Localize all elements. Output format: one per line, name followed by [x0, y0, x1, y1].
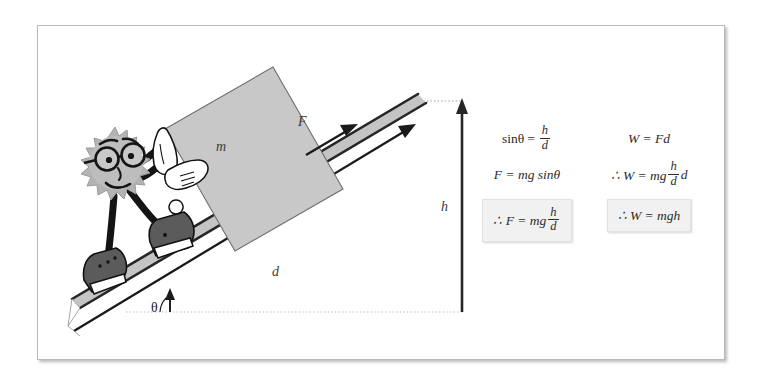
- fraction-h-over-d-work: h d: [668, 160, 678, 187]
- fraction-numerator: h: [548, 206, 558, 219]
- angle-marker: [160, 288, 175, 312]
- equation-column-left: sinθ = h d F = mg sinθ ∴ F = mg h d: [468, 121, 586, 242]
- boxed-result-force: ∴ F = mg h d: [482, 199, 571, 242]
- slide-frame: d m F θ h: [37, 25, 725, 360]
- fraction-numerator: h: [540, 124, 550, 137]
- equation-panel: sinθ = h d F = mg sinθ ∴ F = mg h d W =: [468, 121, 708, 301]
- boxed-force-prefix: ∴ F = mg: [493, 212, 546, 229]
- fraction-denominator: d: [540, 138, 550, 152]
- fraction-h-over-d-force: h d: [548, 206, 558, 233]
- equation-force-mg-sin: F = mg sinθ: [468, 157, 586, 193]
- equation-sin-theta: sinθ = h d: [468, 121, 586, 157]
- boxed-result-work: ∴ W = mgh: [607, 199, 692, 232]
- eq-lhs: sinθ: [502, 131, 524, 147]
- label-mass: m: [216, 139, 226, 154]
- label-angle: θ: [151, 300, 158, 315]
- fraction-h-over-d: h d: [540, 124, 550, 151]
- fraction-numerator: h: [668, 160, 678, 173]
- label-force: F: [297, 114, 307, 129]
- eq-equals: =: [527, 131, 535, 147]
- height-arrow: [456, 98, 468, 312]
- eq-work-prefix: ∴ W = mg: [611, 167, 667, 184]
- equation-work-fd: W = Fd: [590, 121, 708, 157]
- shoe-front-icon: [149, 200, 194, 258]
- equation-column-right: W = Fd ∴ W = mg h d d ∴ W = mgh: [590, 121, 708, 232]
- equation-work-expanded: ∴ W = mg h d d: [590, 157, 708, 193]
- fraction-denominator: d: [548, 219, 558, 233]
- shoe-back-icon: [83, 248, 126, 294]
- label-height: h: [441, 199, 448, 214]
- fraction-denominator: d: [668, 174, 678, 188]
- character-head-icon: [81, 127, 150, 200]
- label-distance: d: [272, 264, 280, 279]
- eq-work-suffix: d: [681, 167, 688, 183]
